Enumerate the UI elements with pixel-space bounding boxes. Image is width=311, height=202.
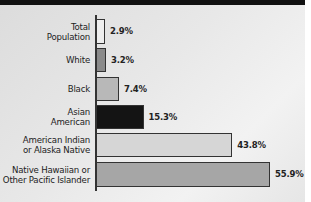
data-bar: [96, 105, 144, 129]
category-label: Total Population: [47, 22, 90, 42]
value-label: 7.4%: [124, 84, 147, 94]
value-label: 15.3%: [149, 112, 178, 122]
bar-row: White3.2%: [0, 48, 305, 72]
value-label: 2.9%: [110, 26, 133, 36]
category-label: Black: [68, 84, 90, 94]
bar-row: Native Hawaiian or Other Pacific Islande…: [0, 162, 305, 187]
category-label: Asian American: [51, 107, 90, 127]
category-label: White: [66, 55, 90, 65]
bar-row: Black7.4%: [0, 77, 305, 101]
data-bar: [96, 77, 119, 101]
value-label: 3.2%: [111, 55, 134, 65]
data-bar: [96, 19, 105, 44]
value-label: 43.8%: [237, 140, 266, 150]
value-label: 55.9%: [275, 169, 304, 179]
data-bar: [96, 133, 232, 157]
category-label: Native Hawaiian or Other Pacific Islande…: [3, 165, 90, 185]
data-bar: [96, 162, 270, 187]
top-border: [0, 0, 305, 5]
bar-row: Asian American15.3%: [0, 105, 305, 129]
data-bar: [96, 48, 106, 72]
bar-row: American Indian or Alaska Native43.8%: [0, 133, 305, 157]
chart-panel: Total Population2.9%White3.2%Black7.4%As…: [0, 0, 305, 202]
category-label: American Indian or Alaska Native: [23, 135, 90, 155]
bar-row: Total Population2.9%: [0, 19, 305, 44]
